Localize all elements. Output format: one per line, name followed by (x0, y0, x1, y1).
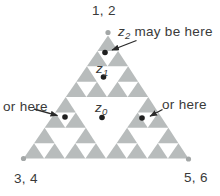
fractal-cell (76, 66, 97, 81)
vertex-dot-top (105, 30, 110, 35)
fractal-cell (75, 128, 96, 143)
fractal-cell (44, 143, 65, 158)
label-or-here-left: or here (3, 99, 48, 114)
fractal-cell (117, 128, 138, 143)
label-top-vertex: 1, 2 (92, 3, 116, 18)
z1-base: z (96, 61, 103, 76)
fractal-cell (158, 128, 179, 143)
z1-subscript: 1 (103, 66, 108, 77)
label-bottom-left-vertex: 3, 4 (14, 171, 38, 186)
fractal-cell (85, 143, 106, 158)
z0-subscript: 0 (102, 106, 107, 117)
fractal-cell (24, 143, 45, 158)
fractal-cell (66, 82, 87, 97)
fractal-cell (86, 82, 107, 97)
z2-rest: may be here (130, 24, 212, 39)
point-z2 (102, 50, 108, 56)
fractal-cell (148, 112, 169, 127)
fractal-cell (108, 51, 129, 66)
label-z2-annotation: z2 may be here (118, 24, 213, 39)
fractal-cell (127, 112, 148, 127)
fractal-cell (65, 143, 86, 158)
fractal-cell (168, 143, 189, 158)
fractal-cell (138, 97, 159, 112)
point-z2-right-option (139, 115, 145, 121)
fractal-cell (34, 128, 55, 143)
fractal-cell (65, 112, 86, 127)
fractal-cell (107, 82, 128, 97)
label-or-here-right: or here (162, 97, 207, 112)
label-z1: z1 (96, 61, 108, 76)
vertex-dot-bottom-right (186, 156, 191, 161)
arrow-to-z2 (112, 41, 137, 51)
z0-base: z (95, 100, 102, 115)
point-z2-left-option (62, 114, 68, 120)
vertex-dot-bottom-left (21, 156, 26, 161)
fractal-cell (118, 66, 139, 81)
fractal-cell (128, 82, 149, 97)
fractal-cell (55, 97, 76, 112)
chaos-game-figure: 1, 2 z2 may be here z1 z0 or here or her… (0, 0, 220, 196)
fractal-cell (106, 143, 127, 158)
label-z0: z0 (95, 100, 107, 115)
label-bottom-right-vertex: 5, 6 (184, 170, 208, 185)
fractal-cell (127, 143, 148, 158)
fractal-cell (147, 143, 168, 158)
z2-base: z (118, 24, 125, 39)
